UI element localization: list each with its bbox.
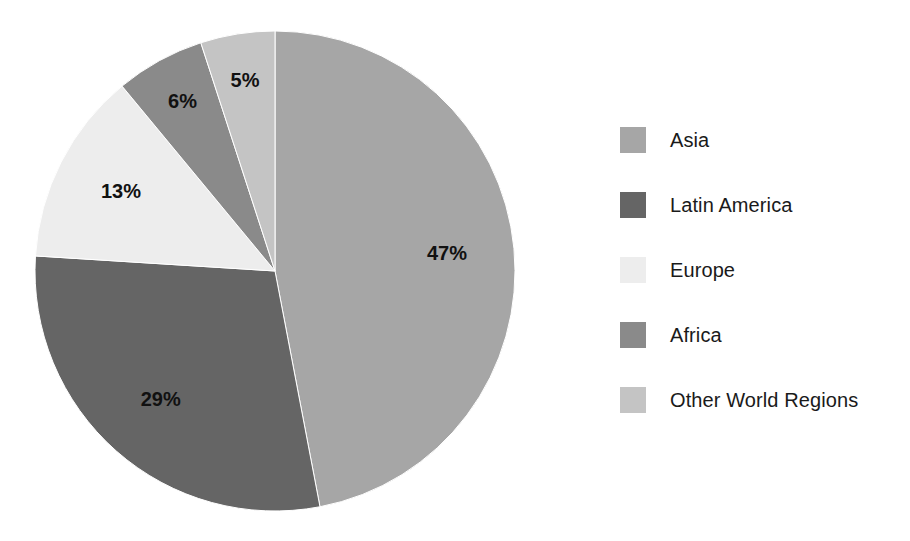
legend-item-label: Other World Regions [670,389,858,412]
pie-slice-data-label: 13% [101,180,141,202]
legend-item[interactable]: Africa [620,317,910,353]
legend-swatch-icon [620,257,646,283]
legend-swatch-icon [620,192,646,218]
pie-slice-data-label: 6% [168,90,197,112]
pie-slices-group [35,31,515,511]
pie-slice-data-label: 29% [141,388,181,410]
pie-chart-figure: 47%29%13%6%5% AsiaLatin AmericaEuropeAfr… [0,0,910,541]
chart-legend: AsiaLatin AmericaEuropeAfricaOther World… [620,122,910,447]
legend-item-label: Europe [670,259,735,282]
legend-swatch-icon [620,127,646,153]
pie-slice[interactable] [275,31,515,507]
pie-slice-data-label: 47% [427,242,467,264]
legend-item-label: Africa [670,324,722,347]
legend-item[interactable]: Other World Regions [620,382,910,418]
legend-item[interactable]: Latin America [620,187,910,223]
pie-slice-data-label: 5% [231,69,260,91]
pie-plot-area: 47%29%13%6%5% [0,0,560,541]
legend-item-label: Asia [670,129,709,152]
legend-swatch-icon [620,322,646,348]
pie-svg: 47%29%13%6%5% [0,0,560,541]
legend-item[interactable]: Asia [620,122,910,158]
legend-swatch-icon [620,387,646,413]
legend-item-label: Latin America [670,194,792,217]
legend-item[interactable]: Europe [620,252,910,288]
pie-slice[interactable] [35,256,320,511]
